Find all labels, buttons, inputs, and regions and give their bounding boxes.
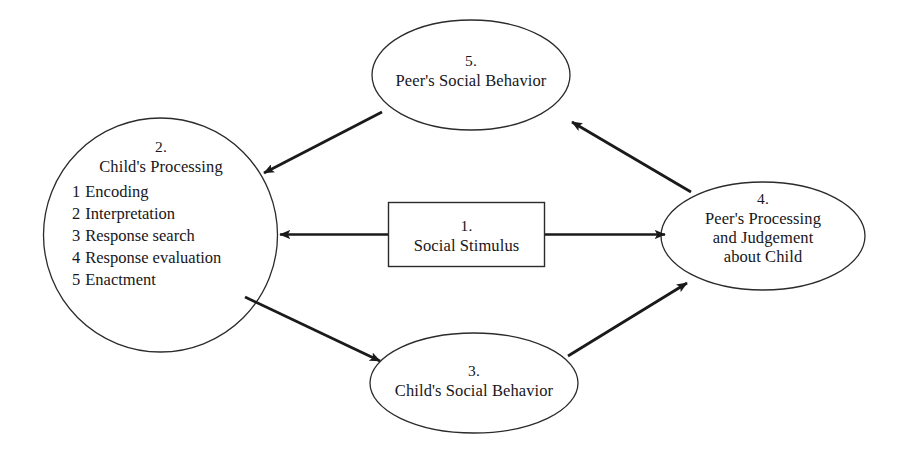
arrow-child-behavior-to-peer-processing [568,283,687,356]
node-shape-child-behavior [370,333,578,433]
node-shape-peer-behavior [372,20,570,130]
diagram-shapes-and-arrows [0,0,900,461]
arrow-child-processing-to-child-behavior [245,297,380,361]
node-shape-child-processing [44,118,278,352]
arrow-peer-behavior-to-child-processing [264,112,382,173]
diagram-canvas: 5. Peer's Social Behavior 2. Child's Pro… [0,0,900,461]
arrow-peer-processing-to-peer-behavior [572,122,691,192]
node-shape-peer-processing [661,182,865,290]
node-shape-stimulus [389,203,545,267]
